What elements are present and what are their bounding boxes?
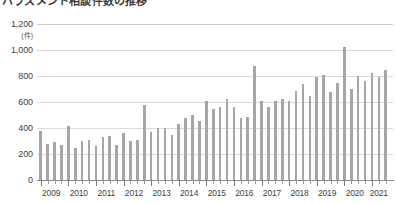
bar: [219, 107, 222, 180]
bar: [302, 84, 305, 180]
x-tick-mark: [275, 180, 276, 184]
x-tick-mark: [386, 180, 387, 184]
bar: [295, 91, 298, 180]
x-tick-mark: [296, 180, 297, 184]
x-tick-mark: [248, 180, 249, 184]
x-tick-mark: [82, 180, 83, 184]
bar: [205, 101, 208, 180]
bar: [122, 133, 125, 180]
x-tick-mark: [144, 180, 145, 184]
y-tick-label: 1,200: [0, 19, 33, 29]
bar: [157, 128, 160, 180]
y-tick-label: 1,000: [0, 45, 33, 55]
x-tick-mark: [379, 180, 380, 184]
x-tick-mark: [331, 180, 332, 184]
x-tick-mark: [289, 180, 290, 186]
x-tick-mark: [124, 180, 125, 186]
x-tick-mark: [324, 180, 325, 184]
bar: [143, 105, 146, 180]
x-tick-label: 2013: [152, 188, 170, 198]
x-tick-mark: [61, 180, 62, 184]
bar: [212, 109, 215, 180]
y-tick-label: 600: [0, 97, 33, 107]
bar: [309, 96, 312, 181]
y-tick-label: 200: [0, 149, 33, 159]
x-tick-label: 2021: [370, 188, 388, 198]
x-tick-mark: [365, 180, 366, 184]
bar: [177, 124, 180, 180]
bar: [288, 101, 291, 180]
bar: [253, 66, 256, 180]
x-tick-mark: [193, 180, 194, 184]
bar: [315, 77, 318, 180]
bar: [322, 75, 325, 180]
x-tick-mark: [199, 180, 200, 184]
x-tick-mark: [110, 180, 111, 184]
bar: [150, 132, 153, 180]
bar: [171, 135, 174, 180]
bar: [115, 145, 118, 180]
x-tick-label: 2017: [263, 188, 281, 198]
gridline: [37, 76, 393, 77]
bar: [274, 101, 277, 180]
gridline: [37, 128, 393, 129]
x-tick-label: 2012: [125, 188, 143, 198]
bar: [164, 128, 167, 180]
bar: [233, 107, 236, 180]
x-tick-mark: [262, 180, 263, 186]
gridline: [37, 102, 393, 103]
x-tick-mark: [172, 180, 173, 184]
bar: [267, 107, 270, 180]
x-tick-mark: [255, 180, 256, 184]
x-tick-mark: [213, 180, 214, 184]
bar: [102, 137, 105, 180]
bar: [198, 121, 201, 180]
x-tick-mark: [241, 180, 242, 184]
x-tick-label: 2016: [235, 188, 253, 198]
y-tick-label: 0: [0, 175, 33, 185]
x-tick-mark: [103, 180, 104, 184]
bar: [350, 89, 353, 180]
bar: [329, 92, 332, 180]
bar: [281, 99, 284, 180]
bar: [191, 115, 194, 180]
x-tick-mark: [372, 180, 373, 186]
x-tick-mark: [151, 180, 152, 186]
x-tick-mark: [130, 180, 131, 184]
bar: [378, 77, 381, 180]
x-tick-mark: [48, 180, 49, 184]
x-tick-mark: [227, 180, 228, 184]
x-tick-label: 2020: [346, 188, 364, 198]
bar: [39, 131, 42, 180]
bar: [60, 145, 63, 180]
bar: [184, 118, 187, 180]
x-tick-mark: [137, 180, 138, 184]
bar: [226, 99, 229, 180]
bar: [343, 47, 346, 180]
x-tick-mark: [186, 180, 187, 184]
bar: [136, 140, 139, 180]
gridline: [37, 154, 393, 155]
bar: [371, 73, 374, 180]
quarterly-bar-chart: ハラスメント相談件数の推移 02004006008001,0001,200 (件…: [0, 0, 396, 204]
bar: [74, 148, 77, 181]
x-tick-mark: [351, 180, 352, 184]
bar: [53, 142, 56, 180]
x-tick-mark: [317, 180, 318, 186]
x-tick-label: 2015: [208, 188, 226, 198]
x-tick-mark: [165, 180, 166, 184]
bar: [240, 118, 243, 180]
bar: [336, 83, 339, 180]
gridline: [37, 24, 393, 25]
y-axis-unit-label: (件): [0, 30, 33, 40]
x-tick-mark: [75, 180, 76, 184]
x-tick-mark: [117, 180, 118, 184]
x-tick-mark: [268, 180, 269, 184]
x-tick-label: 2019: [318, 188, 336, 198]
x-tick-label: 2014: [180, 188, 198, 198]
x-tick-mark: [206, 180, 207, 186]
bar: [357, 76, 360, 180]
bar: [246, 117, 249, 180]
x-tick-mark: [337, 180, 338, 184]
bar: [260, 101, 263, 180]
